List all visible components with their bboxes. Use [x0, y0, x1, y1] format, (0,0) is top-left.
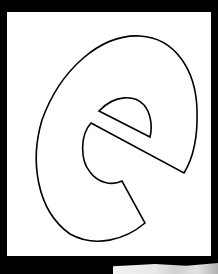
letter-e-outline-icon: [0, 0, 218, 274]
letter-e-outer-contour: [36, 36, 197, 241]
